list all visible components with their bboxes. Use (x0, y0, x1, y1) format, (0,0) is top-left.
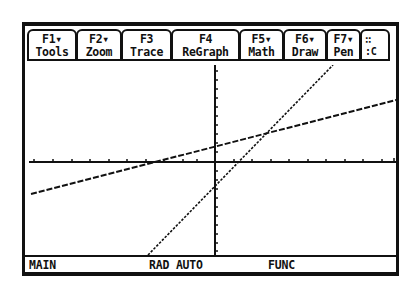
tab-label: Tools (29, 46, 75, 59)
tab-f5-math[interactable]: F5▾ Math (239, 29, 284, 61)
status-angle-mode: RAD AUTO (149, 258, 203, 272)
status-folder: MAIN (29, 258, 56, 272)
tab-label: Pen (328, 46, 359, 59)
tab-f8-extra[interactable]: ∷ :C (360, 29, 390, 61)
tab-f6-draw[interactable]: F6▾ Draw (283, 29, 327, 61)
status-bar: MAIN RAD AUTO FUNC (25, 255, 396, 272)
calculator-screen: F1▾ Tools F2▾ Zoom F3 Trace F4 ReGraph F… (22, 22, 399, 276)
tab-label: Trace (123, 46, 170, 59)
tab-f2-zoom[interactable]: F2▾ Zoom (76, 29, 122, 61)
tab-f7-pen[interactable]: F7▾ Pen (326, 29, 361, 61)
graph-line-steep (148, 65, 333, 255)
function-key-toolbar: F1▾ Tools F2▾ Zoom F3 Trace F4 ReGraph F… (27, 29, 391, 63)
tab-f4-regraph[interactable]: F4 ReGraph (171, 29, 240, 61)
graph-line-shallow (31, 100, 396, 194)
tab-label: Math (241, 46, 282, 59)
tab-f1-tools[interactable]: F1▾ Tools (27, 29, 77, 61)
tab-label: Zoom (78, 46, 120, 59)
tab-label: :C (365, 46, 388, 58)
tab-label: ReGraph (173, 46, 238, 59)
status-graph-mode: FUNC (268, 258, 295, 272)
dots-icon: ∷ (365, 34, 388, 46)
tab-f3-trace[interactable]: F3 Trace (121, 29, 172, 61)
graph-canvas (25, 65, 396, 255)
tab-label: Draw (285, 46, 325, 59)
graph-area[interactable] (25, 65, 396, 255)
